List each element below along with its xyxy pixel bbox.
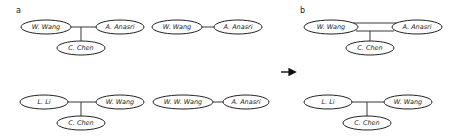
node-c-chen: C. Chen bbox=[346, 41, 394, 55]
svg-text:C. Chen: C. Chen bbox=[68, 119, 93, 127]
svg-text:A. Anasri: A. Anasri bbox=[230, 98, 260, 106]
node-a-anasri: A. Anasri bbox=[223, 95, 269, 109]
svg-text:W. Wang: W. Wang bbox=[32, 23, 60, 31]
svg-text:W. Wang: W. Wang bbox=[106, 98, 134, 106]
svg-text:W. Wang: W. Wang bbox=[163, 23, 191, 31]
node-l-li: L. Li bbox=[304, 95, 352, 109]
svg-text:C. Chen: C. Chen bbox=[68, 44, 93, 52]
group-a-bot-mid: W. W. Wang A. Anasri bbox=[153, 95, 269, 109]
node-w-wang: W. Wang bbox=[384, 95, 432, 109]
node-c-chen: C. Chen bbox=[57, 116, 105, 130]
coauthor-merge-diagram: a b W. Wang A. Anasri C. Chen W. Wang A.… bbox=[0, 0, 455, 139]
node-c-chen: C. Chen bbox=[57, 41, 105, 55]
group-a-top-left: W. Wang A. Anasri C. Chen bbox=[21, 20, 144, 55]
node-a-anasri: A. Anasri bbox=[392, 20, 442, 34]
svg-text:A. Anasri: A. Anasri bbox=[222, 23, 252, 31]
node-w-wang: W. Wang bbox=[21, 20, 71, 34]
svg-text:A. Anasri: A. Anasri bbox=[401, 23, 431, 31]
node-l-li: L. Li bbox=[20, 95, 68, 109]
group-a-bot-left: L. Li W. Wang C. Chen bbox=[20, 95, 144, 130]
svg-text:L. Li: L. Li bbox=[321, 98, 334, 106]
panel-label-a: a bbox=[16, 6, 21, 15]
node-w-wang: W. Wang bbox=[96, 95, 144, 109]
svg-text:W. Wang: W. Wang bbox=[394, 98, 422, 106]
svg-text:C. Chen: C. Chen bbox=[354, 119, 379, 127]
svg-text:C. Chen: C. Chen bbox=[357, 44, 382, 52]
node-w-wang: W. Wang bbox=[304, 20, 358, 34]
svg-text:W. Wang: W. Wang bbox=[317, 23, 345, 31]
node-a-anasri: A. Anasri bbox=[214, 20, 262, 34]
svg-text:L. Li: L. Li bbox=[37, 98, 50, 106]
group-b-top: W. Wang A. Anasri C. Chen bbox=[304, 20, 442, 55]
svg-text:W. W. Wang: W. W. Wang bbox=[164, 98, 202, 106]
svg-text:A. Anasri: A. Anasri bbox=[104, 23, 134, 31]
node-w-wang: W. Wang bbox=[152, 20, 202, 34]
group-b-bot: L. Li W. Wang C. Chen bbox=[304, 95, 432, 130]
group-a-top-mid: W. Wang A. Anasri bbox=[152, 20, 262, 34]
node-a-anasri: A. Anasri bbox=[96, 20, 144, 34]
node-c-chen: C. Chen bbox=[343, 116, 391, 130]
panel-label-b: b bbox=[300, 6, 305, 15]
node-w-w-wang: W. W. Wang bbox=[153, 95, 213, 109]
